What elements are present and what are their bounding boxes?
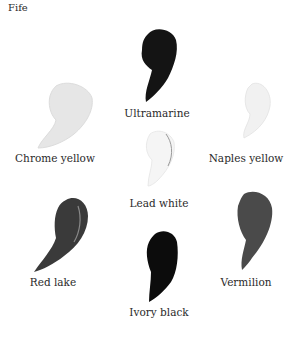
ultramarine-swatch	[138, 26, 180, 104]
label-ultramarine: Ultramarine	[124, 107, 189, 119]
label-red-lake: Red lake	[30, 276, 76, 288]
label-chrome-yellow: Chrome yellow	[15, 152, 95, 164]
red-lake-swatch	[32, 192, 92, 274]
vermilion-swatch	[232, 188, 274, 272]
lead-white-swatch	[140, 128, 178, 188]
label-ivory-black: Ivory black	[129, 306, 188, 318]
page-title: Fife	[8, 2, 28, 13]
label-vermilion: Vermilion	[221, 276, 272, 288]
ivory-black-swatch	[143, 228, 181, 304]
label-lead-white: Lead white	[129, 197, 188, 209]
naples-yellow-swatch	[236, 80, 274, 142]
label-naples-yellow: Naples yellow	[209, 152, 284, 164]
chrome-yellow-swatch	[34, 80, 94, 150]
